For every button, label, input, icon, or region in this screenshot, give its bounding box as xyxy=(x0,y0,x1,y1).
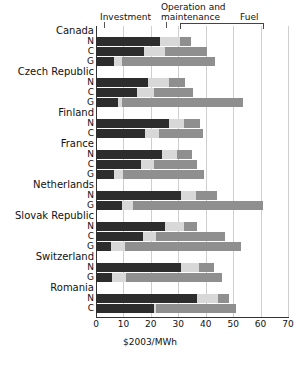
bar-row: C xyxy=(0,232,300,241)
bar-row: G xyxy=(0,242,300,251)
bar-segment-investment xyxy=(96,160,141,169)
bar-segment-investment xyxy=(96,201,122,210)
legend-label-fuel: Fuel xyxy=(240,12,258,22)
legend-label-investment: Investment xyxy=(100,12,151,22)
bar-segment-investment xyxy=(96,47,144,56)
legend-label-om-line1: Operation and xyxy=(161,2,226,12)
x-tick-40: 40 xyxy=(200,319,211,330)
bar-row: N xyxy=(0,294,300,303)
bar-row: C xyxy=(0,304,300,313)
technology-code-N: N xyxy=(87,294,94,303)
bar-segment-investment xyxy=(96,294,197,303)
bar-row: C xyxy=(0,129,300,138)
bar-segment-investment xyxy=(96,88,137,97)
bar-segment-om xyxy=(114,57,122,66)
bar-segment-fuel xyxy=(123,170,204,179)
x-axis-line xyxy=(96,317,289,318)
bar-segment-investment xyxy=(96,191,181,200)
bar-segment-investment xyxy=(96,232,143,241)
bar-segment-om xyxy=(111,242,125,251)
x-axis-title: $2003/MWh xyxy=(0,337,300,347)
x-tick-20: 20 xyxy=(145,319,156,330)
country-label-slovak-republic: Slovak Republic xyxy=(15,211,94,221)
bar-segment-investment xyxy=(96,150,162,159)
bar-row: N xyxy=(0,119,300,128)
bar-segment-investment xyxy=(96,98,118,107)
stacked-bar xyxy=(96,47,207,56)
bar-segment-investment xyxy=(96,273,112,282)
stacked-bar xyxy=(96,98,243,107)
stacked-bar xyxy=(96,150,192,159)
technology-code-C: C xyxy=(88,47,94,56)
bar-row: C xyxy=(0,160,300,169)
technology-code-G: G xyxy=(87,273,94,282)
stacked-bar xyxy=(96,88,193,97)
bar-segment-om xyxy=(165,222,184,231)
country-label-france: France xyxy=(61,139,94,149)
bar-segment-fuel xyxy=(199,263,214,272)
stacked-bar xyxy=(96,119,200,128)
bar-segment-fuel xyxy=(126,273,222,282)
technology-code-N: N xyxy=(87,78,94,87)
bar-row: N xyxy=(0,150,300,159)
bar-segment-fuel xyxy=(159,129,203,138)
bar-segment-investment xyxy=(96,242,111,251)
stacked-bar xyxy=(96,129,203,138)
x-tick-0: 0 xyxy=(93,319,99,330)
technology-code-N: N xyxy=(87,150,94,159)
bar-segment-investment xyxy=(96,119,169,128)
bar-segment-om xyxy=(112,273,126,282)
bar-segment-fuel xyxy=(184,119,200,128)
group-header: Slovak Republic xyxy=(0,211,300,222)
technology-code-C: C xyxy=(88,88,94,97)
bar-segment-om xyxy=(145,129,159,138)
stacked-bar xyxy=(96,78,185,87)
x-tick-50: 50 xyxy=(227,319,238,330)
bar-segment-fuel xyxy=(165,47,207,56)
technology-code-C: C xyxy=(88,304,94,313)
bar-segment-om xyxy=(144,47,166,56)
stacked-bar xyxy=(96,201,263,210)
group-header: Czech Republic xyxy=(0,67,300,78)
technology-code-C: C xyxy=(88,160,94,169)
bar-row: N xyxy=(0,191,300,200)
bar-segment-om xyxy=(162,150,177,159)
bar-segment-fuel xyxy=(122,98,243,107)
bar-row: G xyxy=(0,57,300,66)
bar-row: C xyxy=(0,47,300,56)
bar-segment-fuel xyxy=(133,201,263,210)
technology-code-N: N xyxy=(87,263,94,272)
group-header: Switzerland xyxy=(0,252,300,263)
bar-segment-om xyxy=(122,201,133,210)
bar-segment-om xyxy=(197,294,218,303)
bar-segment-om xyxy=(143,232,157,241)
bar-segment-fuel xyxy=(125,242,242,251)
bar-segment-investment xyxy=(96,263,181,272)
group-header: Romania xyxy=(0,283,300,294)
country-label-canada: Canada xyxy=(56,26,94,36)
x-tick-30: 30 xyxy=(173,319,184,330)
bar-segment-fuel xyxy=(154,88,194,97)
bar-row: G xyxy=(0,170,300,179)
stacked-bar xyxy=(96,160,197,169)
stacked-bar xyxy=(96,273,222,282)
bar-segment-om xyxy=(148,78,169,87)
stacked-bar xyxy=(96,37,191,46)
bar-segment-fuel xyxy=(154,160,198,169)
bar-segment-investment xyxy=(96,57,114,66)
technology-code-G: G xyxy=(87,170,94,179)
stacked-bar xyxy=(96,57,215,66)
country-label-switzerland: Switzerland xyxy=(36,252,94,262)
group-header: Netherlands xyxy=(0,180,300,191)
bar-segment-fuel xyxy=(196,191,217,200)
bar-segment-investment xyxy=(96,37,160,46)
stacked-bar xyxy=(96,232,225,241)
bar-row: N xyxy=(0,78,300,87)
stacked-bar xyxy=(96,242,241,251)
technology-code-G: G xyxy=(87,242,94,251)
x-tick-70: 70 xyxy=(282,319,293,330)
stacked-bar xyxy=(96,304,236,313)
bar-row: N xyxy=(0,222,300,231)
group-header: France xyxy=(0,139,300,150)
bar-segment-fuel xyxy=(169,78,185,87)
